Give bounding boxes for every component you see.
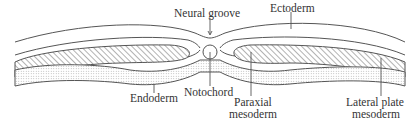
label-ectoderm: Ectoderm	[270, 2, 315, 14]
mesoderm-connector-right	[220, 50, 235, 56]
label-paraxial-line1: Paraxial	[234, 96, 272, 108]
label-notochord: Notochord	[184, 86, 233, 98]
label-neural-groove: Neural groove	[174, 7, 240, 20]
label-endoderm: Endoderm	[130, 92, 178, 104]
label-lateral-line2: mesoderm	[352, 108, 400, 120]
label-paraxial-line2: mesoderm	[229, 108, 277, 120]
embryo-cross-section-diagram: Neural groove Ectoderm Notochord Endoder…	[0, 0, 416, 123]
